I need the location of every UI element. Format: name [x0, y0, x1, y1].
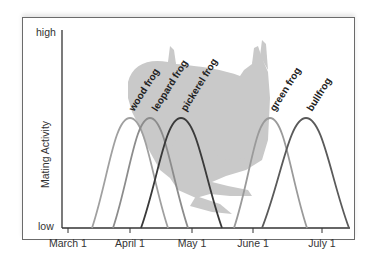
y-high-label: high	[36, 26, 56, 38]
curve-bullfrog	[262, 118, 349, 228]
chart: high low Mating Activity March 1 April 1…	[0, 0, 386, 269]
label-bullfrog: bullfrog	[304, 76, 333, 113]
x-label-may: May 1	[178, 237, 207, 249]
y-low-label: low	[38, 220, 54, 232]
x-label-june: June 1	[237, 237, 269, 249]
x-label-march: March 1	[49, 237, 87, 249]
x-ticks	[68, 228, 322, 233]
label-green-frog: green frog	[267, 65, 303, 113]
y-axis-title: Mating Activity	[39, 120, 51, 188]
frog-silhouette	[128, 40, 270, 214]
x-label-april: April 1	[115, 237, 145, 249]
x-label-july: July 1	[308, 237, 336, 249]
